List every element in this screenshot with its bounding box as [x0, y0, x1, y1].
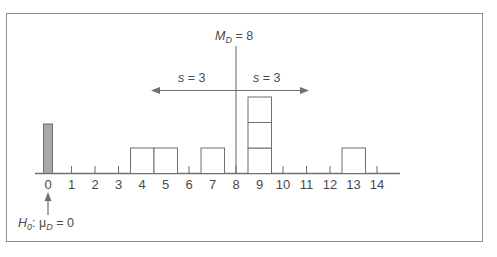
tick-label-12: 12 [323, 177, 337, 192]
tick-label-3: 3 [115, 177, 122, 192]
spread-right-equals: = [259, 71, 273, 85]
block-x13-u1 [342, 148, 366, 174]
chart-svg: 0 1 2 3 4 5 6 7 8 9 10 11 12 13 14 [0, 0, 497, 257]
h0-value: 0 [67, 216, 74, 230]
tick-label-8: 8 [232, 177, 239, 192]
null-hypothesis-pointer [45, 192, 52, 215]
x-axis-tick-labels: 0 1 2 3 4 5 6 7 8 9 10 11 12 13 14 [44, 177, 384, 192]
tick-label-0: 0 [44, 177, 51, 192]
spread-arrows [151, 87, 309, 94]
tick-label-2: 2 [91, 177, 98, 192]
median-label-equals: = [232, 29, 246, 43]
data-blocks [131, 97, 366, 174]
h0-mu: μ [39, 216, 46, 230]
median-label-symbol: M [215, 29, 226, 43]
spread-left-label: s = 3 [178, 71, 206, 85]
median-label: MD = 8 [215, 29, 253, 45]
tick-label-11: 11 [300, 177, 314, 192]
tick-label-5: 5 [162, 177, 169, 192]
tick-label-1: 1 [68, 177, 75, 192]
h0-equals: = [53, 216, 67, 230]
tick-label-6: 6 [185, 177, 192, 192]
spread-right-value: 3 [274, 71, 281, 85]
null-hypothesis-label: H0: μD = 0 [18, 216, 74, 232]
figure-container: 0 1 2 3 4 5 6 7 8 9 10 11 12 13 14 [0, 0, 497, 257]
spread-left-value: 3 [199, 71, 206, 85]
block-x9-u2 [248, 123, 272, 149]
hypothesized-mean-bar [44, 124, 53, 174]
tick-label-4: 4 [138, 177, 145, 192]
tick-label-9: 9 [256, 177, 263, 192]
block-x9-u1 [248, 148, 272, 174]
spread-left-equals: = [184, 71, 198, 85]
h0-colon: : [32, 216, 39, 230]
tick-label-7: 7 [209, 177, 216, 192]
spread-right-arrowhead [300, 87, 309, 94]
spread-left-arrowhead [151, 87, 160, 94]
block-x4-u1 [131, 148, 155, 174]
tick-label-13: 13 [346, 177, 360, 192]
median-label-value: 8 [246, 29, 253, 43]
h0-arrowhead [45, 192, 52, 201]
spread-right-label: s = 3 [253, 71, 281, 85]
block-x7-u1 [201, 148, 225, 174]
block-x5-u1 [154, 148, 178, 174]
tick-label-10: 10 [276, 177, 290, 192]
block-x9-u3 [248, 97, 272, 123]
tick-label-14: 14 [370, 177, 384, 192]
